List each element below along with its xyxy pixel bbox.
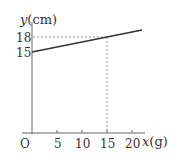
y-tick-label-15: 15 (16, 46, 31, 60)
x-tick-label-15: 15 (100, 137, 115, 151)
x-tick-label-10: 10 (75, 137, 90, 151)
chart: y(cm) 18 15 O 5 10 15 20 x(g) (0, 0, 175, 155)
x-axis-label: x(g) (142, 134, 168, 149)
y-tick-label-18: 18 (16, 31, 31, 45)
x-tick-label-20: 20 (125, 137, 140, 151)
y-axis-label: y(cm) (19, 12, 57, 27)
origin-label: O (20, 137, 30, 151)
data-line (32, 30, 142, 52)
x-tick-label-5: 5 (54, 137, 62, 151)
